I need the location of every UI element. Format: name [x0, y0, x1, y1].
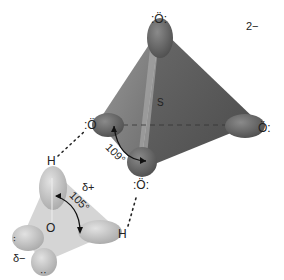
sulfate-oxygen-left: :Ö [84, 119, 97, 131]
sulfur-label: S [157, 98, 164, 108]
sulfate-oxygen-top: :Ö: [151, 13, 167, 25]
lone-pair-bottom: ·· [40, 268, 47, 278]
hydrogen-bond-2 [128, 198, 136, 226]
water-hydrogen-right: H [118, 228, 127, 240]
lone-pair-left: ·· [9, 236, 19, 243]
partial-positive-label: δ+ [82, 182, 95, 193]
water-oxygen: O [46, 222, 55, 234]
water-molecule [12, 166, 122, 276]
partial-negative-label: δ− [13, 253, 26, 264]
water-hydrogen-top: H [47, 155, 56, 167]
sulfate-oxygen-right: Ö: [258, 122, 271, 134]
hydrogen-bond-1 [58, 130, 86, 156]
molecule-illustration [0, 0, 284, 280]
sulfate-charge: 2− [246, 21, 259, 32]
diagram-canvas: :Ö: 2− S :Ö Ö: :Ö: 109° H δ+ 105° O H δ−… [0, 0, 284, 280]
sulfate-oxygen-bottom: :Ö: [133, 179, 149, 191]
